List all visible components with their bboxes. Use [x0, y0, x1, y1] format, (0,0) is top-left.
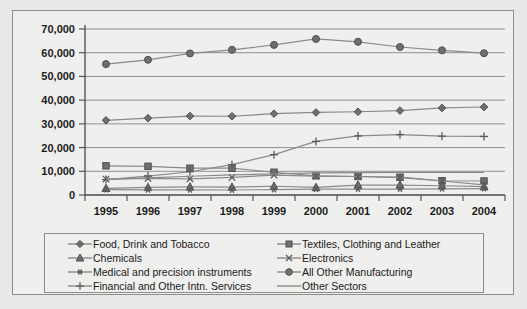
x-axis-tick-label: 1995	[94, 205, 118, 217]
legend-marker-line-icon	[276, 280, 302, 292]
legend-row: Medical and precision instruments All Ot…	[45, 265, 483, 279]
chart-legend: Food, Drink and Tobacco Textiles, Clothi…	[44, 233, 484, 293]
legend-row: Food, Drink and Tobacco Textiles, Clothi…	[45, 237, 483, 251]
y-axis-tick-label: 50,000	[41, 70, 75, 82]
legend-label: Textiles, Clothing and Leather	[302, 238, 440, 250]
x-axis-tick-label: 2000	[304, 205, 328, 217]
y-axis-tick-label: 10,000	[41, 165, 75, 177]
y-axis-tick-label: 30,000	[41, 118, 75, 130]
legend-label: All Other Manufacturing	[302, 266, 412, 278]
legend-item-chemicals: Chemicals	[45, 251, 266, 265]
legend-item-all-other-manufacturing: All Other Manufacturing	[266, 265, 483, 279]
legend-item-medical-and-precision-instruments: Medical and precision instruments	[45, 265, 266, 279]
plot-area: 010,00020,00030,00040,00050,00060,00070,…	[13, 11, 515, 231]
x-axis-tick-label: 1999	[262, 205, 286, 217]
legend-item-textiles-clothing-and-leather: Textiles, Clothing and Leather	[266, 237, 483, 251]
y-axis-tick-label: 0	[69, 189, 75, 201]
x-axis-tick-label: 2002	[388, 205, 412, 217]
legend-label: Other Sectors	[302, 280, 367, 292]
series-food-drink-and-tobacco	[102, 103, 488, 124]
legend-row: Chemicals Electronics	[45, 251, 483, 265]
y-axis-tick-label: 40,000	[41, 94, 75, 106]
legend-item-other-sectors: Other Sectors	[266, 279, 483, 293]
legend-marker-asterisk-icon	[67, 266, 93, 278]
legend-label: Financial and Other Intn. Services	[93, 280, 251, 292]
legend-marker-x-icon	[276, 252, 302, 264]
series-all-other-manufacturing	[103, 35, 488, 67]
legend-marker-triangle-icon	[67, 252, 93, 264]
legend-marker-circle-icon	[276, 266, 302, 278]
x-axis-tick-label: 2004	[472, 205, 497, 217]
y-axis-tick-label: 20,000	[41, 142, 75, 154]
legend-label: Chemicals	[93, 252, 142, 264]
x-axis-tick-label: 1998	[220, 205, 244, 217]
y-axis-tick-label: 70,000	[41, 23, 75, 35]
legend-label: Medical and precision instruments	[93, 266, 252, 278]
legend-item-food-drink-and-tobacco: Food, Drink and Tobacco	[45, 237, 266, 251]
legend-item-electronics: Electronics	[266, 251, 483, 265]
legend-item-financial-and-other-intn-services: Financial and Other Intn. Services	[45, 279, 266, 293]
legend-label: Food, Drink and Tobacco	[93, 238, 210, 250]
line-chart-canvas: 010,00020,00030,00040,00050,00060,00070,…	[13, 11, 515, 231]
legend-marker-plus-icon	[67, 280, 93, 292]
legend-row: Financial and Other Intn. Services Other…	[45, 279, 483, 293]
legend-marker-diamond-icon	[67, 238, 93, 250]
legend-marker-square-icon	[276, 238, 302, 250]
x-axis-tick-label: 1997	[178, 205, 202, 217]
x-axis-tick-label: 2001	[346, 205, 370, 217]
x-axis-tick-label: 1996	[136, 205, 160, 217]
chart-figure: 010,00020,00030,00040,00050,00060,00070,…	[12, 10, 514, 295]
x-axis-tick-label: 2003	[430, 205, 454, 217]
y-axis-tick-label: 60,000	[41, 47, 75, 59]
legend-label: Electronics	[302, 252, 353, 264]
